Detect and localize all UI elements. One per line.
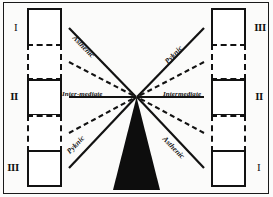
edge-label-middle-left: Inter-mediate: [62, 90, 103, 98]
node-box-left-2[interactable]: [27, 44, 62, 80]
node-box-right-3[interactable]: [211, 79, 246, 116]
node-box-left-4[interactable]: [27, 115, 62, 152]
node-box-left-1[interactable]: [27, 8, 62, 46]
numeral-left-3: II: [5, 91, 23, 102]
node-box-right-5[interactable]: [211, 150, 246, 187]
numeral-right-5: I: [252, 162, 265, 173]
black-wedge: [113, 97, 160, 190]
edge-label-middle-right: Intermediate: [163, 90, 201, 98]
numeral-right-3: II: [250, 91, 268, 102]
node-box-left-5[interactable]: [27, 150, 62, 187]
numeral-left-1: I: [9, 22, 22, 33]
node-box-right-4[interactable]: [211, 115, 246, 152]
connector-R4-dashed: [137, 97, 204, 133]
node-box-right-2[interactable]: [211, 44, 246, 80]
connector-L4-dashed: [69, 97, 136, 133]
node-box-right-1[interactable]: [211, 8, 246, 46]
constitution-diagram-figure: I II III III II I Asthenic Pyknic Inter-…: [0, 0, 273, 197]
numeral-right-1: III: [249, 22, 271, 33]
node-box-left-3[interactable]: [27, 79, 62, 116]
numeral-left-5: III: [2, 162, 24, 173]
